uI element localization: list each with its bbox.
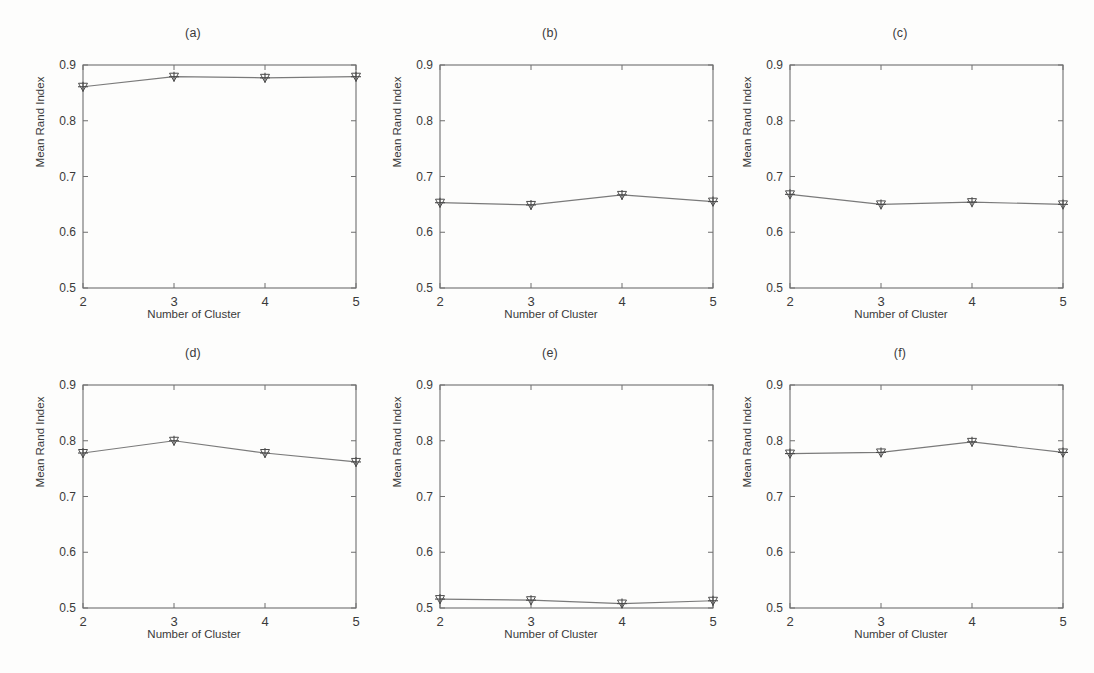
x-tick-label: 3 — [877, 294, 884, 309]
y-tick-label: 0.6 — [59, 225, 76, 239]
data-point-marker — [435, 594, 445, 604]
x-axis-label: Number of Cluster — [403, 628, 699, 640]
data-point-marker — [169, 72, 179, 82]
y-tick-label: 0.9 — [416, 58, 433, 72]
data-point-marker — [260, 448, 270, 458]
data-point-marker — [435, 198, 445, 208]
y-tick-label: 0.6 — [416, 225, 433, 239]
x-tick-label: 2 — [786, 294, 793, 309]
plot-svg: 0.50.60.70.80.92345 — [23, 340, 363, 665]
x-tick-label: 3 — [527, 294, 534, 309]
x-axis-label: Number of Cluster — [753, 628, 1049, 640]
data-point-marker — [785, 449, 795, 459]
y-tick-label: 0.5 — [766, 601, 783, 615]
data-point-marker — [260, 73, 270, 83]
data-point-marker — [617, 599, 627, 609]
y-tick-label: 0.6 — [59, 545, 76, 559]
y-axis-label: Mean Rand Index — [34, 42, 46, 202]
y-tick-label: 0.8 — [766, 434, 783, 448]
x-tick-label: 5 — [709, 294, 716, 309]
data-point-marker — [526, 200, 536, 210]
y-tick-label: 0.7 — [416, 170, 433, 184]
plot-frame — [83, 385, 356, 608]
x-tick-label: 2 — [79, 294, 86, 309]
y-axis-label: Mean Rand Index — [391, 362, 403, 522]
figure-canvas: (a) 0.50.60.70.80.92345 Mean Rand Index … — [0, 0, 1094, 673]
y-tick-label: 0.6 — [766, 545, 783, 559]
plot-svg: 0.50.60.70.80.92345 — [23, 20, 363, 345]
x-tick-label: 4 — [968, 294, 975, 309]
data-point-marker — [967, 437, 977, 447]
series-line — [440, 599, 713, 603]
data-point-marker — [351, 72, 361, 82]
y-tick-label: 0.5 — [766, 281, 783, 295]
data-point-marker — [78, 448, 88, 458]
data-point-marker — [876, 199, 886, 209]
x-axis-label: Number of Cluster — [753, 308, 1049, 320]
y-axis-label: Mean Rand Index — [391, 42, 403, 202]
data-point-marker — [169, 436, 179, 446]
x-tick-label: 2 — [436, 294, 443, 309]
y-tick-label: 0.8 — [59, 114, 76, 128]
y-tick-label: 0.5 — [59, 601, 76, 615]
x-axis-label: Number of Cluster — [403, 308, 699, 320]
data-point-marker — [1058, 199, 1068, 209]
x-tick-label: 5 — [1059, 294, 1066, 309]
x-tick-label: 4 — [968, 614, 975, 629]
series-line — [440, 195, 713, 205]
series-line — [790, 442, 1063, 454]
panel-d: (d) 0.50.60.70.80.92345 Mean Rand Index … — [23, 340, 363, 665]
y-tick-label: 0.8 — [416, 114, 433, 128]
data-point-marker — [876, 447, 886, 457]
plot-area: 0.50.60.70.80.92345 Mean Rand Index Numb… — [23, 340, 363, 665]
plot-area: 0.50.60.70.80.92345 Mean Rand Index Numb… — [730, 340, 1070, 665]
series-line — [790, 194, 1063, 204]
plot-frame — [83, 65, 356, 288]
y-tick-label: 0.8 — [766, 114, 783, 128]
plot-svg: 0.50.60.70.80.92345 — [380, 340, 720, 665]
panel-c: (c) 0.50.60.70.80.92345 Mean Rand Index … — [730, 20, 1070, 345]
plot-area: 0.50.60.70.80.92345 Mean Rand Index Numb… — [23, 20, 363, 345]
plot-frame — [440, 65, 713, 288]
data-point-marker — [1058, 447, 1068, 457]
x-tick-label: 3 — [170, 294, 177, 309]
y-tick-label: 0.7 — [766, 490, 783, 504]
plot-svg: 0.50.60.70.80.92345 — [730, 20, 1070, 345]
y-tick-label: 0.5 — [416, 281, 433, 295]
x-tick-label: 2 — [436, 614, 443, 629]
plot-frame — [440, 385, 713, 608]
plot-area: 0.50.60.70.80.92345 Mean Rand Index Numb… — [730, 20, 1070, 345]
data-point-marker — [785, 189, 795, 199]
x-tick-label: 5 — [352, 614, 359, 629]
x-tick-label: 3 — [527, 614, 534, 629]
data-point-marker — [526, 595, 536, 605]
data-point-marker — [78, 82, 88, 92]
data-point-marker — [967, 197, 977, 207]
y-tick-label: 0.8 — [59, 434, 76, 448]
plot-area: 0.50.60.70.80.92345 Mean Rand Index Numb… — [380, 340, 720, 665]
panel-b: (b) 0.50.60.70.80.92345 Mean Rand Index … — [380, 20, 720, 345]
plot-frame — [790, 385, 1063, 608]
data-point-marker — [351, 457, 361, 467]
y-axis-label: Mean Rand Index — [34, 362, 46, 522]
y-axis-label: Mean Rand Index — [741, 362, 753, 522]
y-axis-label: Mean Rand Index — [741, 42, 753, 202]
y-tick-label: 0.9 — [416, 378, 433, 392]
x-tick-label: 2 — [79, 614, 86, 629]
x-tick-label: 4 — [261, 614, 268, 629]
y-tick-label: 0.8 — [416, 434, 433, 448]
series-line — [83, 441, 356, 462]
x-tick-label: 3 — [170, 614, 177, 629]
x-tick-label: 4 — [618, 614, 625, 629]
y-tick-label: 0.5 — [59, 281, 76, 295]
data-point-marker — [708, 197, 718, 207]
x-tick-label: 5 — [352, 294, 359, 309]
data-point-marker — [708, 596, 718, 606]
y-tick-label: 0.6 — [766, 225, 783, 239]
y-tick-label: 0.6 — [416, 545, 433, 559]
plot-svg: 0.50.60.70.80.92345 — [730, 340, 1070, 665]
x-tick-label: 5 — [709, 614, 716, 629]
y-tick-label: 0.9 — [59, 58, 76, 72]
y-tick-label: 0.9 — [766, 58, 783, 72]
plot-frame — [790, 65, 1063, 288]
